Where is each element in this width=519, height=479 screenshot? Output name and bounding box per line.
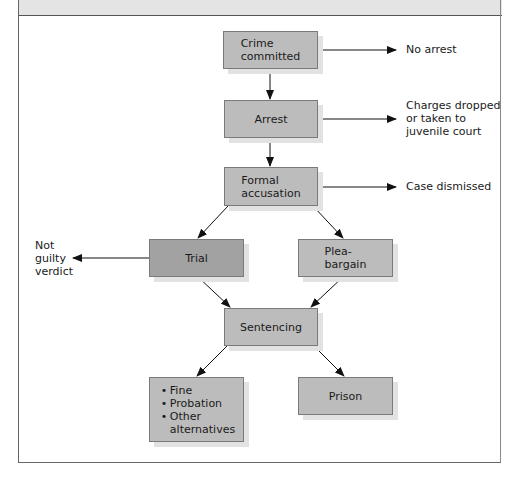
node-sentencing: Sentencing [224, 308, 318, 346]
node-prison-label: Prison [329, 390, 362, 403]
outcome-charges-dropped: Charges dropped or taken to juvenile cou… [406, 99, 500, 138]
alternatives-item-other: Other [170, 410, 235, 423]
node-arrest-label: Arrest [255, 113, 288, 126]
outcome-no-arrest: No arrest [406, 43, 457, 56]
outcome-charges-line2: or taken to [406, 112, 500, 125]
arrow-trial-to-sentencing [197, 276, 230, 307]
node-alternatives: Fine Probation Other alternatives [149, 377, 244, 442]
node-accusation-line2: accusation [241, 187, 300, 200]
outcome-not-guilty-line2: guilty [35, 252, 73, 265]
node-plea-line2: bargain [325, 258, 367, 271]
node-crime-line2: committed [241, 50, 301, 63]
node-crime-line1: Crime [241, 37, 301, 50]
arrow-plea-to-sentencing [311, 276, 344, 307]
node-formal-accusation: Formal accusation [224, 167, 318, 206]
arrow-accusation-to-trial [198, 206, 228, 238]
alternatives-item-probation: Probation [170, 397, 235, 410]
node-arrest: Arrest [224, 100, 318, 138]
node-trial-label: Trial [185, 252, 207, 265]
outcome-charges-line3: juvenile court [406, 125, 500, 138]
alternatives-item-fine: Fine [170, 384, 235, 397]
arrow-sentencing-to-prison [313, 345, 344, 376]
node-plea-bargain: Plea- bargain [298, 239, 393, 277]
node-prison: Prison [298, 377, 393, 415]
node-accusation-line1: Formal [241, 174, 300, 187]
node-trial: Trial [149, 239, 244, 277]
alternatives-item-other-cont: alternatives [170, 423, 235, 436]
arrow-sentencing-to-alternatives [197, 345, 228, 376]
outcome-charges-line1: Charges dropped [406, 99, 500, 112]
outcome-not-guilty: Not guilty verdict [35, 239, 73, 278]
node-sentencing-label: Sentencing [240, 321, 302, 334]
connector-layer [0, 0, 519, 479]
node-plea-line1: Plea- [325, 245, 367, 258]
alternatives-list: Fine Probation Other alternatives [158, 384, 235, 436]
outcome-case-dismissed: Case dismissed [406, 180, 491, 193]
arrow-accusation-to-plea [313, 206, 343, 238]
node-crime-committed: Crime committed [223, 31, 318, 69]
outcome-not-guilty-line3: verdict [35, 265, 73, 278]
outcome-not-guilty-line1: Not [35, 239, 73, 252]
